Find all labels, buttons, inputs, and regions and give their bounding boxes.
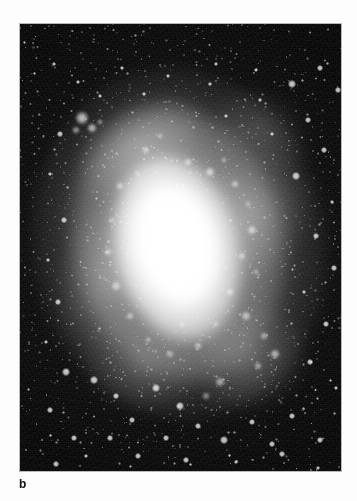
galaxy-photograph bbox=[20, 24, 341, 471]
panel-label-b: b bbox=[19, 477, 26, 491]
film-grain-secondary bbox=[20, 24, 341, 471]
figure-panel: b bbox=[0, 0, 357, 501]
